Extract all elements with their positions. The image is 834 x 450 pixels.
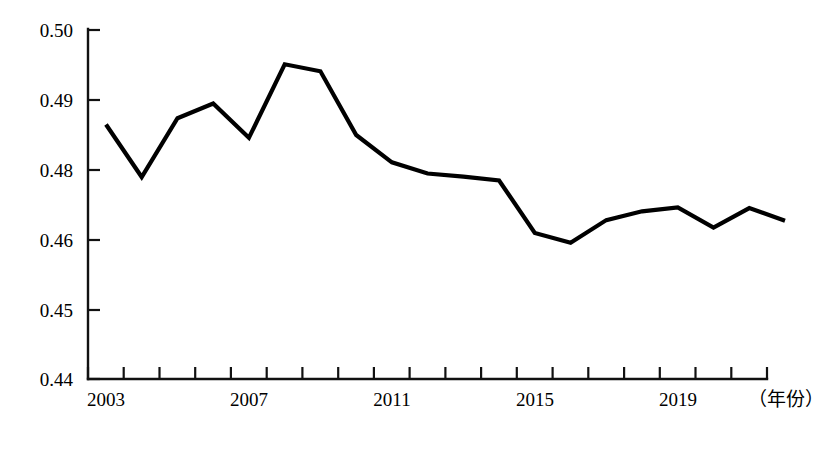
x-axis-caption: （年份）: [748, 389, 824, 410]
y-tick-label-0: 0.50: [40, 20, 73, 41]
x-tick-label-2003: 2003: [87, 389, 125, 410]
y-tick-label-5: 0.44: [40, 369, 74, 390]
y-tick-label-3: 0.46: [40, 230, 73, 251]
x-tick-label-2011: 2011: [373, 389, 410, 410]
x-tick-label-2019: 2019: [659, 389, 697, 410]
y-tick-label-1: 0.49: [40, 90, 73, 111]
y-tick-label-2: 0.48: [40, 160, 73, 181]
x-tick-label-2015: 2015: [516, 389, 554, 410]
line-chart: 0.50 0.49 0.48 0.46 0.45 0.44 2003 2007 …: [0, 0, 834, 450]
x-tick-label-2007: 2007: [230, 389, 268, 410]
y-tick-label-4: 0.45: [40, 300, 73, 321]
chart-container: 0.50 0.49 0.48 0.46 0.45 0.44 2003 2007 …: [0, 0, 834, 450]
